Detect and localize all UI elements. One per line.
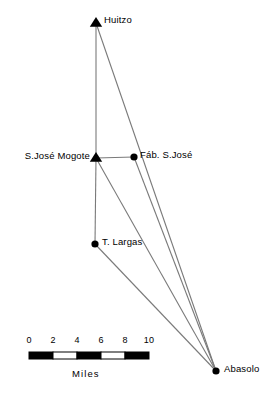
scale-units-label: Miles	[72, 369, 100, 379]
map-link-s-jose-mogote-to-t-largas	[95, 158, 96, 244]
site-label-fab-s-jose: Fáb. S.José	[140, 150, 192, 160]
site-marker-circle-fab-s-jose[interactable]	[130, 153, 137, 160]
scale-bar-segment-1	[53, 352, 77, 359]
scale-tick-label-8: 8	[115, 336, 135, 345]
scale-bar-segment-3	[101, 352, 125, 359]
link-layer	[95, 23, 216, 371]
site-marker-triangle-s-jose-mogote[interactable]	[90, 152, 102, 162]
site-label-t-largas: T. Largas	[102, 237, 142, 247]
scale-bar-segment-2	[77, 352, 101, 359]
site-location-map: HuitzoS.José MogoteFáb. S.JoséT. LargasA…	[0, 0, 276, 398]
map-link-huitzo-to-abasolo	[96, 23, 216, 371]
site-label-huitzo: Huitzo	[104, 15, 132, 25]
map-canvas	[0, 0, 276, 398]
site-marker-circle-abasolo[interactable]	[212, 367, 219, 374]
scale-tick-label-0: 0	[19, 336, 39, 345]
site-label-abasolo: Abasolo	[224, 364, 259, 374]
scale-bar-segment-0	[29, 352, 53, 359]
scale-bar-graphic	[29, 352, 149, 359]
site-marker-triangle-huitzo[interactable]	[90, 17, 102, 27]
scale-tick-label-4: 4	[67, 336, 87, 345]
scale-bar-segment-4	[125, 352, 149, 359]
site-label-s-jose-mogote: S.José Mogote	[25, 151, 90, 161]
scale-tick-label-6: 6	[91, 336, 111, 345]
marker-layer	[90, 17, 220, 375]
map-link-s-jose-mogote-to-fab-s-jose	[96, 157, 134, 158]
site-marker-circle-t-largas[interactable]	[91, 240, 98, 247]
scale-tick-label-10: 10	[139, 336, 159, 345]
scale-tick-label-2: 2	[43, 336, 63, 345]
